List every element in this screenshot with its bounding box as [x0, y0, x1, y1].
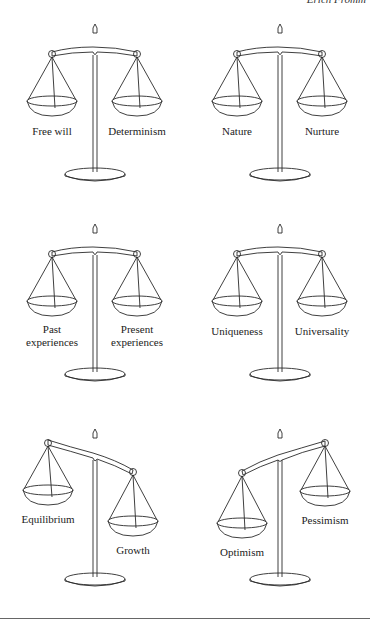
label-right: Presentexperiences — [111, 323, 163, 349]
label-right: Nurture — [305, 125, 339, 138]
label-right: Growth — [116, 544, 150, 557]
balance-scale-icon-tilted — [185, 405, 370, 605]
scale-nature-nurture: Nature Nurture — [185, 0, 370, 200]
balance-scale-icon — [185, 200, 370, 400]
scale-free-will-determinism: Free will Determinism — [0, 0, 185, 200]
label-right: Determinism — [108, 125, 165, 138]
scale-past-present: Pastexperiences Presentexperiences — [0, 200, 185, 400]
label-left: Optimism — [220, 546, 264, 559]
label-left: Free will — [32, 125, 71, 138]
label-left: Equilibrium — [21, 513, 74, 526]
label-left: Pastexperiences — [26, 323, 78, 349]
label-right: Universality — [295, 325, 349, 338]
scale-equilibrium-growth: Equilibrium Growth — [0, 405, 185, 605]
label-left-line1: Past — [43, 323, 61, 335]
page-rule — [0, 618, 370, 619]
balance-scale-icon — [0, 200, 185, 400]
label-right-line1: Present — [121, 323, 153, 335]
balance-scale-icon — [0, 0, 185, 200]
scale-optimism-pessimism: Optimism Pessimism — [185, 405, 370, 605]
label-right: Pessimism — [301, 514, 348, 527]
label-left-line2: experiences — [26, 336, 78, 348]
balance-scale-icon — [185, 0, 370, 200]
scale-uniqueness-universality: Uniqueness Universality — [185, 200, 370, 400]
balance-scale-icon-tilted — [0, 405, 185, 605]
label-left: Nature — [222, 125, 252, 138]
label-left: Uniqueness — [211, 325, 262, 338]
label-right-line2: experiences — [111, 336, 163, 348]
